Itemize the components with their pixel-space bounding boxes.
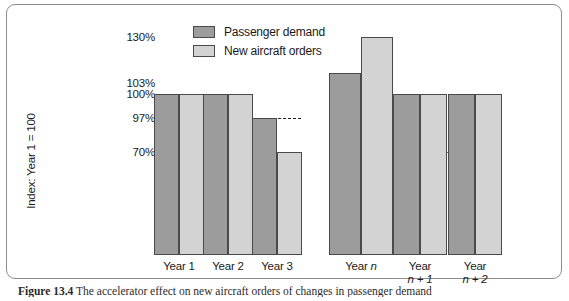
x-label-year-2: Year 2 bbox=[203, 260, 253, 273]
legend-item-new-aircraft-orders: New aircraft orders bbox=[193, 42, 325, 59]
y-axis-tick-column: 130% 103% 100% 97% 70% bbox=[103, 5, 155, 280]
figure-caption-text: The accelerator effect on new aircraft o… bbox=[76, 285, 432, 297]
bar-year-n-plus-1-passenger-demand bbox=[393, 94, 420, 255]
x-label-year-n-symbol: n bbox=[371, 260, 377, 272]
x-label-year-n-plus-1-word: Year bbox=[393, 260, 447, 273]
bar-year-n-plus-1-new-aircraft-orders bbox=[420, 94, 447, 255]
x-label-year-3: Year 3 bbox=[252, 260, 302, 273]
bar-year-n-passenger-demand bbox=[329, 73, 361, 255]
y-tick-70: 70% bbox=[133, 146, 155, 158]
chart-plot-area: 130% 103% 100% 97% 70% Index: Year 1 = 1… bbox=[7, 5, 561, 278]
legend-label-new-aircraft-orders: New aircraft orders bbox=[224, 44, 322, 58]
x-label-year-n: Year n bbox=[329, 260, 393, 273]
x-label-year-n-plus-2-symbol: n + 2 bbox=[463, 273, 488, 285]
chart-legend: Passenger demand New aircraft orders bbox=[193, 23, 325, 61]
x-label-year-1: Year 1 bbox=[154, 260, 204, 273]
bar-year-3-new-aircraft-orders bbox=[277, 152, 302, 255]
figure-caption-label: Figure 13.4 bbox=[18, 285, 73, 297]
bar-year-1-new-aircraft-orders bbox=[179, 94, 204, 255]
bar-year-n-plus-2-new-aircraft-orders bbox=[475, 94, 502, 255]
bar-year-2-new-aircraft-orders bbox=[228, 94, 253, 255]
x-label-year-3-text: Year 3 bbox=[261, 260, 293, 272]
y-tick-100: 100% bbox=[126, 88, 155, 100]
x-label-year-n-word: Year bbox=[345, 260, 367, 272]
x-label-year-n-plus-2-word: Year bbox=[448, 260, 502, 273]
bar-year-n-plus-2-passenger-demand bbox=[448, 94, 475, 255]
figure-caption: Figure 13.4 The accelerator effect on ne… bbox=[18, 285, 558, 297]
x-label-year-1-text: Year 1 bbox=[163, 260, 195, 272]
legend-swatch-passenger-demand bbox=[193, 26, 215, 38]
x-label-year-n-plus-2: Year n + 2 bbox=[448, 260, 502, 286]
legend-label-passenger-demand: Passenger demand bbox=[224, 25, 325, 39]
y-tick-130: 130% bbox=[126, 31, 155, 43]
legend-item-passenger-demand: Passenger demand bbox=[193, 23, 325, 40]
x-label-year-n-plus-1-symbol: n + 1 bbox=[408, 273, 433, 285]
y-tick-97: 97% bbox=[133, 112, 155, 124]
bar-year-2-passenger-demand bbox=[203, 94, 228, 255]
x-label-year-2-text: Year 2 bbox=[212, 260, 244, 272]
bar-year-n-new-aircraft-orders bbox=[361, 37, 393, 255]
bar-year-3-passenger-demand bbox=[252, 118, 277, 255]
figure-frame: 130% 103% 100% 97% 70% Index: Year 1 = 1… bbox=[6, 4, 562, 279]
y-axis-title: Index: Year 1 = 100 bbox=[25, 91, 37, 231]
legend-swatch-new-aircraft-orders bbox=[193, 45, 215, 57]
x-label-year-n-plus-1: Year n + 1 bbox=[393, 260, 447, 286]
bar-year-1-passenger-demand bbox=[154, 94, 179, 255]
